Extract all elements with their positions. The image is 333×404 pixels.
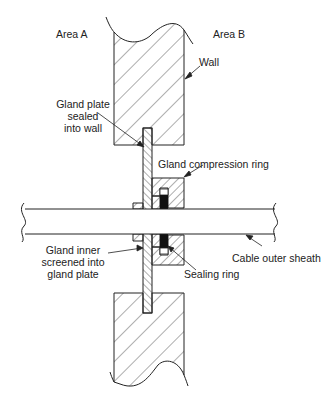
sealing-ring-lower: [160, 234, 168, 254]
gland-diagram: [0, 0, 333, 404]
wall-label: Wall: [199, 56, 219, 68]
gland-inner-label-line3: gland plate: [40, 268, 106, 280]
sealing-ring-upper: [160, 189, 168, 209]
sealing-ring-label: Sealing ring: [184, 268, 239, 280]
cable-sheath-label: Cable outer sheath: [232, 252, 321, 264]
gland-inner-label-line2: screened into: [40, 256, 106, 268]
wall-upper: [106, 17, 193, 145]
gland-plate-label: Gland plate sealed into wall: [56, 98, 110, 134]
area-b-label: Area B: [213, 28, 245, 40]
gland-inner-label-line1: Gland inner: [40, 244, 106, 256]
gland-plate-label-line2: sealed: [56, 110, 110, 122]
gland-plate-label-line1: Gland plate: [56, 98, 110, 110]
gland-inner-label: Gland inner screened into gland plate: [40, 244, 106, 280]
gland-plate-label-line3: into wall: [56, 122, 110, 134]
area-a-label: Area A: [56, 28, 88, 40]
compression-ring-label: Gland compression ring: [158, 158, 269, 170]
